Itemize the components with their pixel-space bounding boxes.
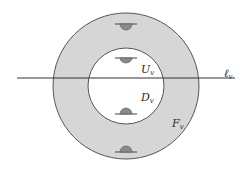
annulus-diagram: Uv Dv Fv ℓv bbox=[0, 0, 248, 172]
label-ell-v: ℓv bbox=[224, 67, 233, 81]
